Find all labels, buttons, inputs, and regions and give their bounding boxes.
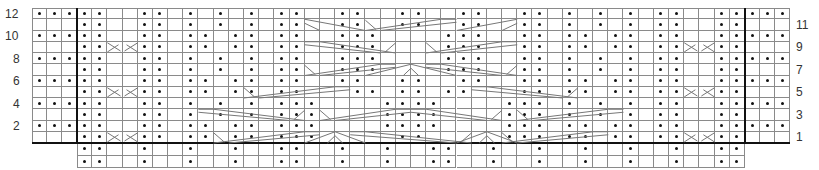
cable-cross-icon bbox=[294, 110, 305, 119]
cable-cross-icon bbox=[198, 109, 304, 120]
cable-cross-icon bbox=[517, 109, 623, 120]
row-number-label: 10 bbox=[5, 30, 18, 42]
row-number-label: 12 bbox=[5, 8, 18, 20]
cable-cross-icon bbox=[327, 136, 342, 143]
cable-cross-icon bbox=[350, 132, 471, 143]
knitting-chart: 121086421197531 bbox=[0, 0, 819, 170]
cable-cross-icon bbox=[305, 42, 396, 53]
cable-cross-icon bbox=[107, 88, 137, 96]
cable-cross-icon bbox=[385, 43, 396, 52]
cable-cross-icon bbox=[502, 23, 517, 30]
cable-cross-icon bbox=[507, 65, 518, 74]
cable-cross-icon bbox=[426, 43, 437, 52]
cable-cross-icon bbox=[244, 88, 255, 97]
cable-cross-icon bbox=[244, 87, 350, 98]
cable-cross-icon bbox=[479, 136, 494, 143]
cable-cross-icon bbox=[502, 132, 608, 143]
cable-cross-icon bbox=[365, 20, 376, 29]
cable-cross-icon bbox=[502, 133, 513, 142]
cable-cross-icon bbox=[320, 109, 411, 120]
cable-cross-icon bbox=[365, 64, 456, 75]
cable-cross-icon bbox=[305, 64, 396, 75]
row-number-label: 6 bbox=[13, 75, 20, 87]
row-number-label: 2 bbox=[13, 120, 20, 132]
cable-cross-icon bbox=[305, 23, 320, 30]
row-number-label: 7 bbox=[796, 64, 803, 76]
cable-cross-icon bbox=[457, 19, 518, 30]
cable-cross-icon bbox=[305, 19, 366, 30]
row-number-label: 5 bbox=[796, 86, 803, 98]
cable-lines bbox=[0, 0, 819, 170]
cable-cross-icon bbox=[426, 64, 517, 75]
cable-cross-icon bbox=[472, 87, 578, 98]
row-number-label: 1 bbox=[796, 131, 803, 143]
cable-cross-icon bbox=[567, 88, 578, 97]
cable-cross-icon bbox=[214, 132, 320, 143]
row-number-label: 3 bbox=[796, 109, 803, 121]
cable-cross-icon bbox=[403, 68, 418, 75]
cable-cross-icon bbox=[517, 110, 528, 119]
cable-cross-icon bbox=[491, 110, 502, 119]
cable-cross-icon bbox=[365, 19, 456, 30]
cable-cross-icon bbox=[305, 132, 366, 143]
cable-cross-icon bbox=[684, 133, 714, 141]
cable-cross-icon bbox=[305, 65, 316, 74]
cable-cross-icon bbox=[107, 133, 137, 141]
cable-cross-icon bbox=[426, 42, 517, 53]
row-number-label: 8 bbox=[13, 53, 20, 65]
cable-cross-icon bbox=[684, 43, 714, 51]
cable-cross-icon bbox=[411, 109, 502, 120]
row-number-label: 4 bbox=[13, 98, 20, 110]
cable-cross-icon bbox=[107, 43, 137, 51]
cable-cross-icon bbox=[684, 88, 714, 96]
cable-cross-icon bbox=[320, 110, 331, 119]
row-number-label: 11 bbox=[796, 19, 808, 31]
cable-cross-icon bbox=[214, 133, 225, 142]
row-number-label: 9 bbox=[796, 41, 803, 53]
